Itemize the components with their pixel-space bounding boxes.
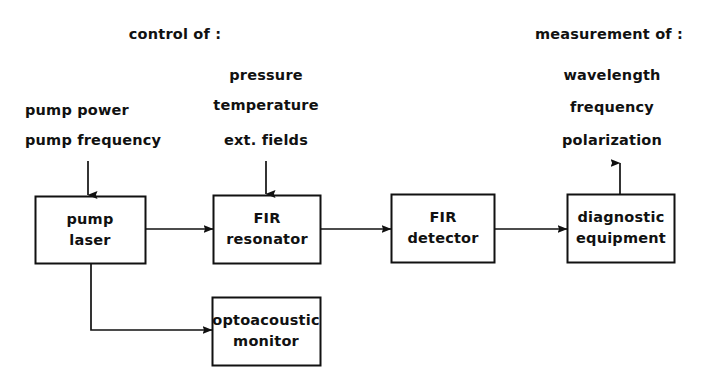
box-label-diagnostic-equipment-line1: diagnostic: [576, 207, 666, 228]
control-param-temperature: temperature: [213, 98, 318, 113]
box-label-fir-detector-line2: detector: [407, 228, 478, 249]
control-param-pump-frequency: pump frequency: [25, 133, 161, 148]
box-label-pump-laser: pump laser: [67, 209, 114, 251]
diagram-canvas: [0, 0, 703, 387]
box-label-optoacoustic-monitor: optoacoustic monitor: [212, 310, 319, 352]
block-diagram: control of : measurement of : pump power…: [0, 0, 703, 387]
connector-pump-laser-to-optoacoustic-monitor: [91, 264, 212, 330]
box-label-fir-resonator-line2: resonator: [226, 229, 308, 250]
box-label-fir-resonator: FIR resonator: [226, 208, 308, 250]
box-label-fir-detector: FIR detector: [407, 207, 478, 249]
box-label-diagnostic-equipment: diagnostic equipment: [576, 207, 666, 249]
measurement-group-heading: measurement of :: [535, 27, 683, 42]
control-param-pump-power: pump power: [25, 103, 129, 118]
measurement-param-wavelength: wavelength: [563, 68, 660, 83]
control-param-ext-fields: ext. fields: [224, 133, 308, 148]
box-label-pump-laser-line2: laser: [67, 230, 114, 251]
box-label-fir-resonator-line1: FIR: [226, 208, 308, 229]
box-label-optoacoustic-monitor-line1: optoacoustic: [212, 310, 319, 331]
box-label-optoacoustic-monitor-line2: monitor: [212, 331, 319, 352]
box-label-fir-detector-line1: FIR: [407, 207, 478, 228]
measurement-param-polarization: polarization: [562, 133, 662, 148]
measurement-param-frequency: frequency: [570, 100, 654, 115]
box-label-diagnostic-equipment-line2: equipment: [576, 228, 666, 249]
box-label-pump-laser-line1: pump: [67, 209, 114, 230]
control-param-pressure: pressure: [229, 68, 303, 83]
control-group-heading: control of :: [129, 27, 221, 42]
